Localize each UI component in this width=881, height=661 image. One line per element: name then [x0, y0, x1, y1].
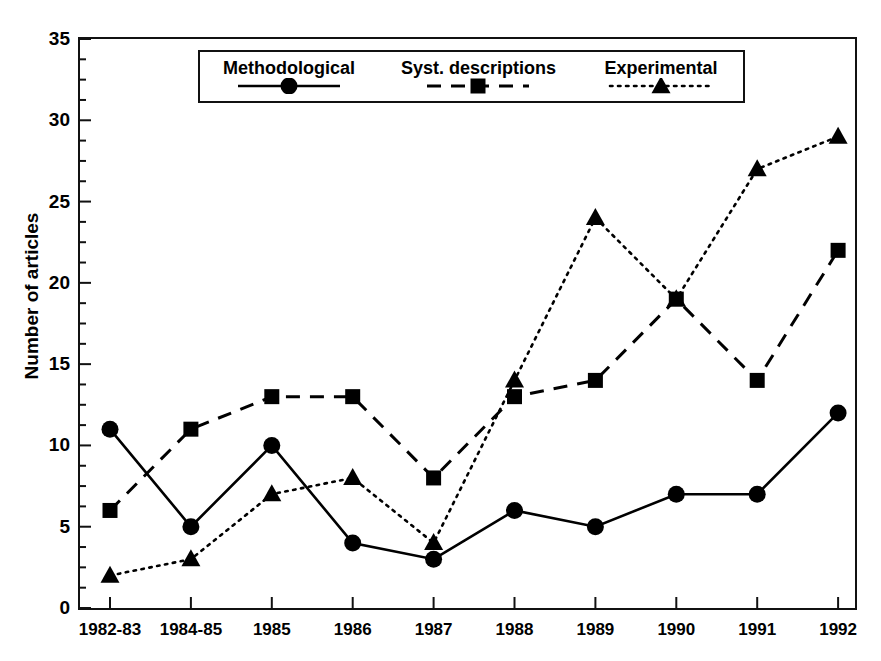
x-tick-label: 1984-85: [160, 620, 222, 640]
data-point: [586, 208, 605, 225]
data-point: [344, 534, 361, 551]
legend-label: Syst. descriptions: [401, 59, 556, 78]
plot-area: [78, 37, 857, 610]
y-tick-label: 35: [8, 28, 70, 50]
plot-svg: [80, 39, 855, 608]
legend-sample-triangle-icon: [602, 78, 720, 94]
x-tick-label: 1988: [496, 620, 534, 640]
y-tick-label: 5: [8, 516, 70, 538]
legend-sample-square-icon: [419, 78, 537, 94]
data-point: [830, 404, 847, 421]
x-tick-label: 1991: [738, 620, 776, 640]
data-point: [424, 533, 443, 550]
data-point: [343, 468, 362, 485]
data-point: [263, 437, 280, 454]
x-tick-label: 1985: [253, 620, 291, 640]
y-tick-label: 20: [8, 272, 70, 294]
data-point: [829, 127, 848, 144]
data-point: [506, 502, 523, 519]
data-point: [183, 422, 198, 437]
data-point: [587, 518, 604, 535]
series-methodological: [102, 404, 847, 567]
series-syst-descriptions: [103, 243, 846, 518]
legend-entry: Syst. descriptions: [395, 52, 562, 101]
data-point: [103, 503, 118, 518]
legend-entry: Methodological: [217, 52, 361, 101]
series-line: [110, 137, 838, 576]
y-tick-label: 10: [8, 434, 70, 456]
data-point: [425, 551, 442, 568]
y-tick-label: 0: [8, 597, 70, 619]
series-line: [110, 250, 838, 510]
y-tick-label: 25: [8, 191, 70, 213]
x-tick-label: 1987: [415, 620, 453, 640]
data-point: [181, 549, 200, 566]
legend-entry: Experimental: [596, 52, 726, 101]
data-point: [345, 389, 360, 404]
data-point: [749, 486, 766, 503]
data-point: [102, 421, 119, 438]
legend-sample-circle-icon: [230, 78, 348, 94]
data-point: [831, 243, 846, 258]
x-tick-label: 1990: [657, 620, 695, 640]
chart-legend: MethodologicalSyst. descriptionsExperime…: [198, 50, 745, 103]
data-point: [264, 389, 279, 404]
data-point: [750, 373, 765, 388]
y-axis-tick-labels: 05101520253035: [0, 0, 70, 661]
data-point: [507, 389, 522, 404]
y-tick-label: 30: [8, 109, 70, 131]
x-tick-label: 1982-83: [79, 620, 141, 640]
data-point: [426, 470, 441, 485]
legend-label: Experimental: [604, 59, 717, 78]
series-experimental: [101, 127, 848, 583]
x-tick-label: 1986: [334, 620, 372, 640]
data-point: [588, 373, 603, 388]
legend-label: Methodological: [223, 59, 355, 78]
series-line: [110, 413, 838, 559]
x-tick-label: 1992: [819, 620, 857, 640]
chart-figure: Number of articles 05101520253035 1982-8…: [0, 0, 881, 661]
y-tick-label: 15: [8, 353, 70, 375]
x-tick-label: 1989: [576, 620, 614, 640]
data-point: [505, 371, 524, 388]
data-point: [182, 518, 199, 535]
data-point: [668, 486, 685, 503]
